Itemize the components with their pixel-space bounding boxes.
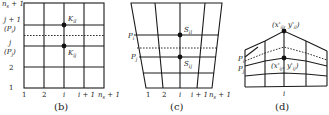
point-K-il: [62, 23, 67, 28]
col-label-i: i: [63, 91, 65, 99]
caption-b: (b): [54, 101, 68, 112]
point-S-il: [178, 33, 183, 38]
row-label-Pi: Pi: [237, 55, 245, 64]
grid-line: [245, 47, 258, 57]
col-label-1: 1: [146, 91, 150, 99]
point-S-ij: [178, 55, 183, 60]
figure: ns + 1 j + 1 (Pi) j (Pj) 2 1 1 2 i i + 1…: [0, 0, 329, 115]
point-K-ij: [62, 44, 67, 49]
point-lower: [282, 56, 287, 61]
col-label-i1: i + 1: [78, 91, 95, 99]
col-label-2: 2: [162, 91, 166, 99]
grid-border: [131, 3, 222, 88]
caption-d: (d): [275, 101, 289, 112]
col-label-i1: i + 1: [191, 91, 208, 99]
label-K-il: Kil: [67, 15, 77, 24]
panel-c: Pi Pj 1 2 i i + 1 ns + 1 Sil Sij (c): [127, 3, 231, 112]
label-S-ij: Sij: [184, 60, 192, 70]
row-label-j1: j + 1: [2, 16, 21, 24]
col-label-ns1: ns + 1: [98, 91, 120, 100]
panel-b: ns + 1 j + 1 (Pi) j (Pj) 2 1 1 2 i i + 1…: [2, 0, 120, 112]
grid-line: [155, 3, 163, 88]
row-label-ns1: ns + 1: [2, 0, 24, 9]
col-label-ns1: ns + 1: [209, 91, 231, 100]
row-label-Pj: Pj: [237, 65, 245, 75]
row-label-Pi: Pi: [127, 32, 135, 41]
row-label-1: 1: [9, 84, 13, 92]
label-lower-coords: (x'ij, y'ij): [271, 62, 299, 71]
grid-line: [197, 3, 205, 88]
panel-c-grid: [131, 3, 222, 88]
row-label-2: 2: [9, 64, 13, 72]
label-upper-coords: (x'il, y'il): [272, 21, 300, 30]
row-label-j: j: [7, 39, 12, 47]
col-label-i: i: [283, 90, 285, 98]
row-label-Pi: (Pi): [4, 25, 16, 34]
col-label-2: 2: [42, 91, 46, 99]
grid-line: [245, 73, 327, 76]
caption-c: (c): [170, 101, 184, 112]
col-label-i: i: [179, 91, 181, 99]
row-label-Pj: Pj: [130, 53, 138, 63]
grid-border: [245, 86, 327, 87]
label-K-ij: Kij: [67, 49, 77, 59]
col-label-1: 1: [22, 91, 26, 99]
row-label-Pj: (Pj): [4, 48, 16, 58]
panel-d: Pi Pj i (x'il, y'il) (x'ij, y'ij) (d): [237, 21, 327, 112]
label-S-il: Sil: [184, 26, 192, 35]
